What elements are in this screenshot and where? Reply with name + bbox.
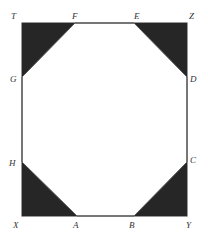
label-Z: Z — [189, 11, 195, 21]
label-T: T — [11, 11, 17, 21]
label-X: X — [12, 220, 19, 230]
octagon-diagram: T F E Z G D H C X A B Y — [0, 0, 208, 238]
label-B: B — [129, 220, 135, 230]
label-Y: Y — [186, 220, 192, 230]
label-C: C — [190, 155, 197, 165]
label-F: F — [71, 11, 78, 21]
label-A: A — [72, 220, 79, 230]
label-H: H — [8, 158, 16, 168]
label-E: E — [133, 11, 140, 21]
label-G: G — [10, 74, 17, 84]
label-D: D — [189, 74, 197, 84]
